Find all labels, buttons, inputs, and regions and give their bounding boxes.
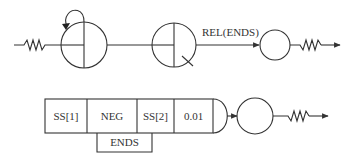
self-loop-arrow-icon xyxy=(62,10,84,30)
circle-node-3[interactable] xyxy=(260,30,290,60)
diagram-canvas: REL(ENDS) SS[1] NEG SS[2] 0.01 ENDS xyxy=(0,0,345,158)
quartered-circle-node-1[interactable] xyxy=(61,10,107,68)
zigzag-output-arrow-icon-2 xyxy=(273,111,328,121)
ends-label: ENDS xyxy=(110,136,139,148)
cell-ss1: SS[1] xyxy=(53,110,78,122)
edge-label-rel-ends: REL(ENDS) xyxy=(202,26,259,39)
circle-node-4[interactable] xyxy=(237,98,273,134)
d-shape-terminator xyxy=(213,99,227,133)
cell-value: 0.01 xyxy=(184,110,203,122)
cell-neg: NEG xyxy=(101,110,124,122)
zigzag-input-icon xyxy=(14,40,61,50)
zigzag-output-arrow-icon xyxy=(290,40,340,50)
cell-ss2: SS[2] xyxy=(143,110,168,122)
quartered-circle-node-2[interactable] xyxy=(152,23,196,67)
